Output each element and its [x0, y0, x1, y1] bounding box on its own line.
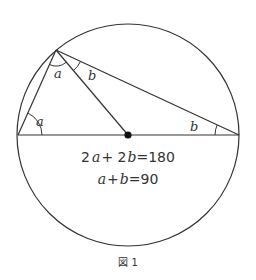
radius-to-top — [56, 50, 128, 135]
center-point — [124, 131, 131, 138]
inscribed-triangle-diagram: a a b b 2a+ 2b=180 a+b=90 図 1 — [0, 0, 256, 280]
label-b-top: b — [88, 68, 96, 83]
angle-arc-b-top — [73, 61, 80, 70]
equation-2: a+b=90 — [98, 171, 159, 187]
equation-1: 2a+ 2b=180 — [81, 149, 175, 165]
label-a-left: a — [36, 114, 44, 129]
label-b-right: b — [190, 119, 198, 134]
label-a-top: a — [54, 66, 62, 81]
figure-caption: 図 1 — [118, 257, 138, 268]
angle-arc-b-right — [215, 125, 217, 135]
